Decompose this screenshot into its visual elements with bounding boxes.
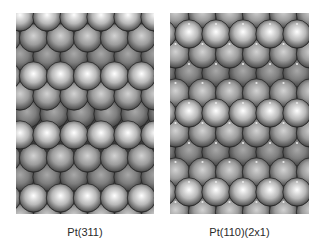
junction-dot	[201, 43, 203, 45]
junction-dot	[242, 181, 244, 183]
junction-dot	[282, 82, 284, 84]
junction-dot	[242, 23, 244, 25]
bright-atom-sphere	[100, 62, 128, 90]
bright-atom-sphere	[46, 62, 74, 90]
bright-atom-sphere	[283, 20, 309, 48]
junction-dot	[174, 43, 176, 45]
junction-dot	[228, 201, 230, 203]
junction-dot	[282, 161, 284, 163]
junction-dot	[282, 201, 284, 203]
bright-atom-sphere	[19, 184, 47, 212]
junction-dot	[242, 63, 244, 65]
junction-dot	[228, 82, 230, 84]
bright-atom-sphere	[73, 62, 101, 90]
junction-dot	[282, 43, 284, 45]
junction-dot	[201, 161, 203, 163]
bright-atom-sphere	[33, 121, 61, 149]
junction-dot	[296, 63, 298, 65]
junction-dot	[215, 142, 217, 144]
junction-dot	[296, 142, 298, 144]
junction-dot	[174, 82, 176, 84]
junction-dot	[228, 161, 230, 163]
junction-dot	[215, 102, 217, 104]
junction-dot	[255, 201, 257, 203]
junction-dot	[269, 23, 271, 25]
bright-atom-sphere	[73, 184, 101, 212]
junction-dot	[269, 142, 271, 144]
bright-atom-sphere	[127, 62, 154, 90]
pt311-surface-model-panel	[16, 13, 154, 214]
junction-dot	[188, 102, 190, 104]
junction-dot	[269, 102, 271, 104]
junction-dot	[228, 43, 230, 45]
junction-dot	[255, 122, 257, 124]
junction-dot	[174, 122, 176, 124]
bright-atom-sphere	[283, 99, 309, 127]
junction-dot	[269, 181, 271, 183]
junction-dot	[215, 63, 217, 65]
bright-atom-sphere	[127, 184, 154, 212]
junction-dot	[228, 122, 230, 124]
junction-dot	[296, 23, 298, 25]
junction-dot	[269, 63, 271, 65]
junction-dot	[188, 181, 190, 183]
junction-dot	[255, 161, 257, 163]
bright-atom-sphere	[100, 184, 128, 212]
junction-dot	[201, 122, 203, 124]
junction-dot	[296, 102, 298, 104]
junction-dot	[201, 82, 203, 84]
junction-dot	[296, 181, 298, 183]
junction-dot	[215, 181, 217, 183]
pt311-caption: Pt(311)	[16, 226, 154, 238]
pt110-2x1-surface-model-panel	[170, 13, 309, 214]
junction-dot	[215, 23, 217, 25]
junction-dot	[282, 122, 284, 124]
bright-atom-sphere	[60, 121, 88, 149]
junction-dot	[255, 82, 257, 84]
junction-dot	[174, 161, 176, 163]
junction-dot	[255, 43, 257, 45]
junction-dot	[174, 201, 176, 203]
sphere-lattice	[170, 13, 309, 214]
junction-dot	[242, 142, 244, 144]
pt110-2x1-caption: Pt(110)(2x1)	[170, 226, 309, 238]
bright-atom-sphere	[114, 121, 142, 149]
junction-dot	[242, 102, 244, 104]
junction-dot	[201, 201, 203, 203]
sphere-lattice	[16, 13, 154, 214]
junction-dot	[188, 142, 190, 144]
junction-dot	[188, 63, 190, 65]
bright-atom-sphere	[46, 184, 74, 212]
bright-atom-sphere	[283, 178, 309, 206]
bright-atom-sphere	[87, 121, 115, 149]
junction-dot	[188, 23, 190, 25]
bright-atom-sphere	[19, 62, 47, 90]
